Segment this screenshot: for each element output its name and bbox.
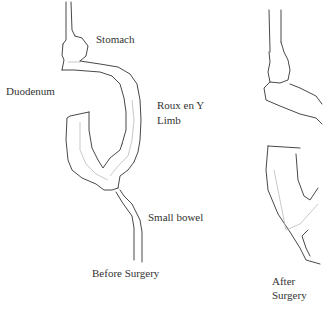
after-roux-limb-lower xyxy=(264,82,322,124)
after-roux-limb-upper xyxy=(290,84,322,104)
after-surgery-caption-line2: Surgery xyxy=(272,289,307,302)
after-surgery-drawing xyxy=(0,0,323,311)
stomach-label: Stomach xyxy=(96,33,135,46)
after-join xyxy=(302,230,310,256)
after-duodenum-inner xyxy=(296,154,318,200)
after-duodenum-top xyxy=(268,146,300,148)
after-stomach-pouch xyxy=(268,42,290,83)
roux-limb-label-line1: Roux en Y xyxy=(157,99,204,112)
after-esophagus-left xyxy=(269,10,270,52)
after-duodenum-outer xyxy=(266,146,320,264)
surgery-diagram: Stomach Duodenum Roux en Y Limb Small bo… xyxy=(0,0,323,311)
before-surgery-caption: Before Surgery xyxy=(92,267,159,280)
after-midline xyxy=(274,170,318,230)
after-surgery-caption-line1: After xyxy=(272,275,295,288)
duodenum-label: Duodenum xyxy=(6,85,55,98)
small-bowel-label: Small bowel xyxy=(148,211,203,224)
roux-limb-label-line2: Limb xyxy=(157,114,181,127)
